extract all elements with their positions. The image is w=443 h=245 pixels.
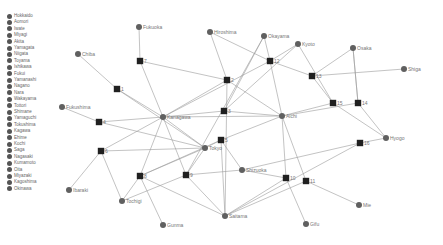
- square-node-icon[interactable]: [137, 58, 143, 64]
- square-node-icon[interactable]: [283, 175, 289, 181]
- hub-node-8[interactable]: 8: [137, 173, 147, 179]
- node-tochigi[interactable]: Tochigi: [119, 198, 142, 204]
- hub-node-16[interactable]: 16: [357, 140, 370, 146]
- circle-node-icon[interactable]: [356, 202, 362, 208]
- edge: [306, 181, 359, 205]
- edge: [78, 54, 117, 89]
- hub-node-12[interactable]: 12: [267, 58, 280, 64]
- edge: [140, 61, 163, 117]
- circle-node-icon[interactable]: [239, 167, 245, 173]
- node-tokyo[interactable]: Tokyo: [202, 145, 222, 151]
- node-chiba[interactable]: Chiba: [75, 51, 95, 57]
- circle-node-icon[interactable]: [401, 66, 407, 72]
- square-node-icon[interactable]: [96, 119, 102, 125]
- node-hiroshima[interactable]: Hiroshima: [207, 29, 237, 35]
- circle-node-icon[interactable]: [136, 24, 142, 30]
- node-gifu[interactable]: Gifu: [303, 221, 319, 227]
- edge: [99, 122, 205, 148]
- square-node-icon[interactable]: [355, 100, 361, 106]
- square-node-icon[interactable]: [303, 178, 309, 184]
- square-node-icon[interactable]: [218, 137, 224, 143]
- hub-node-6[interactable]: 6: [98, 148, 108, 154]
- hub-label: 12: [274, 58, 280, 64]
- edge: [186, 36, 264, 175]
- hub-label: 15: [337, 100, 343, 106]
- edge: [101, 117, 163, 151]
- hub-node-4[interactable]: 4: [96, 119, 106, 125]
- circle-node-icon[interactable]: [75, 51, 81, 57]
- hub-node-3[interactable]: 3: [221, 108, 231, 114]
- hub-node-5[interactable]: 5: [218, 137, 228, 143]
- square-node-icon[interactable]: [183, 172, 189, 178]
- square-node-icon[interactable]: [267, 58, 273, 64]
- square-node-icon[interactable]: [330, 100, 336, 106]
- edge: [333, 103, 386, 138]
- node-saitama[interactable]: Saitama: [222, 213, 248, 219]
- circle-node-icon[interactable]: [66, 187, 72, 193]
- node-label: Chiba: [82, 51, 95, 57]
- edge: [221, 116, 282, 140]
- node-label: Fukuoka: [143, 24, 162, 30]
- circle-node-icon[interactable]: [303, 221, 309, 227]
- edge: [358, 103, 386, 138]
- circle-node-icon[interactable]: [222, 213, 228, 219]
- circle-node-icon[interactable]: [119, 198, 125, 204]
- node-label: Hiroshima: [214, 29, 237, 35]
- hub-node-13[interactable]: 13: [309, 73, 322, 79]
- node-hyogo[interactable]: Hyogo: [383, 135, 405, 141]
- edge: [69, 151, 101, 190]
- circle-node-icon[interactable]: [295, 41, 301, 47]
- circle-node-icon[interactable]: [160, 222, 166, 228]
- square-node-icon[interactable]: [309, 73, 315, 79]
- node-gunma[interactable]: Gunma: [160, 222, 184, 228]
- square-node-icon[interactable]: [224, 77, 230, 83]
- hub-node-14[interactable]: 14: [355, 100, 368, 106]
- hub-label: 2: [231, 77, 234, 83]
- edge: [101, 148, 205, 151]
- square-node-icon[interactable]: [221, 108, 227, 114]
- circle-node-icon[interactable]: [383, 135, 389, 141]
- hub-label: 7: [144, 58, 147, 64]
- node-fukuoka[interactable]: Fukuoka: [136, 24, 162, 30]
- edge: [186, 175, 225, 216]
- node-mie[interactable]: Mie: [356, 202, 371, 208]
- node-kyoto[interactable]: Kyoto: [295, 41, 315, 47]
- edge: [312, 69, 404, 76]
- node-shizuoka[interactable]: Shizuoka: [239, 167, 267, 173]
- hub-label: 8: [144, 173, 147, 179]
- hub-node-10[interactable]: 10: [283, 175, 296, 181]
- hub-node-15[interactable]: 15: [330, 100, 343, 106]
- circle-node-icon[interactable]: [207, 29, 213, 35]
- hub-node-7[interactable]: 7: [137, 58, 147, 64]
- edge: [139, 27, 140, 61]
- node-shiga[interactable]: Shiga: [401, 66, 421, 72]
- edge: [270, 61, 282, 116]
- circle-node-icon[interactable]: [160, 114, 166, 120]
- node-ibaraki[interactable]: Ibaraki: [66, 187, 88, 193]
- circle-node-icon[interactable]: [279, 113, 285, 119]
- edge: [312, 76, 333, 103]
- hub-node-11[interactable]: 11: [303, 178, 316, 184]
- hub-node-9[interactable]: 9: [183, 172, 193, 178]
- circle-node-icon[interactable]: [59, 104, 65, 110]
- node-label: Gunma: [167, 222, 184, 228]
- node-label: Aichi: [286, 113, 297, 119]
- square-node-icon[interactable]: [137, 173, 143, 179]
- square-node-icon[interactable]: [357, 140, 363, 146]
- node-kanagawa[interactable]: Kanagawa: [160, 114, 191, 120]
- circle-node-icon[interactable]: [350, 45, 356, 51]
- square-node-icon[interactable]: [114, 86, 120, 92]
- edge: [99, 117, 163, 122]
- hub-node-1[interactable]: 1: [114, 86, 124, 92]
- node-okayama[interactable]: Okayama: [261, 33, 290, 39]
- node-fukushima[interactable]: Fukushima: [59, 104, 91, 110]
- node-aichi[interactable]: Aichi: [279, 113, 297, 119]
- hub-label: 10: [290, 175, 296, 181]
- edge: [227, 80, 282, 116]
- circle-node-icon[interactable]: [261, 33, 267, 39]
- hub-node-2[interactable]: 2: [224, 77, 234, 83]
- edge: [312, 48, 353, 76]
- square-node-icon[interactable]: [98, 148, 104, 154]
- circle-node-icon[interactable]: [202, 145, 208, 151]
- node-osaka[interactable]: Osaka: [350, 45, 372, 51]
